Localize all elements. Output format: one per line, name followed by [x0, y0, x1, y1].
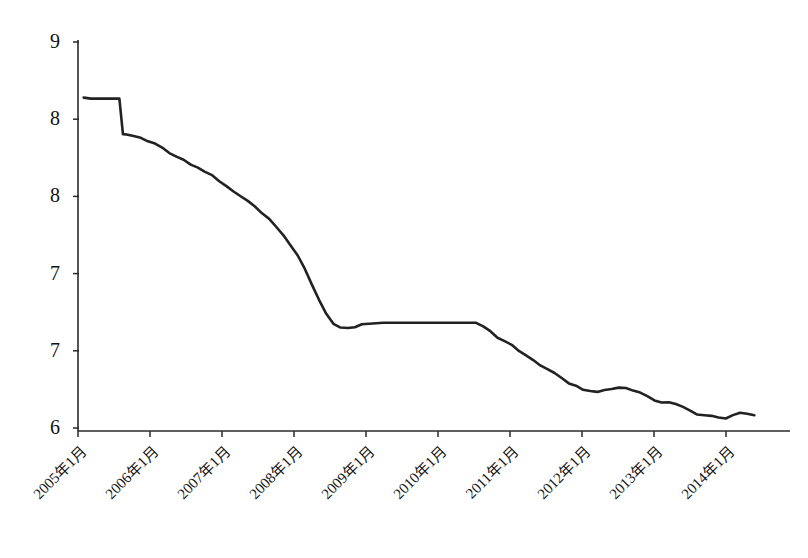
x-tick-marks — [78, 431, 726, 437]
y-tick-label: 7 — [20, 263, 60, 283]
y-tick-label: 8 — [20, 185, 60, 205]
axes-group — [78, 40, 790, 431]
data-series-line — [84, 98, 755, 419]
series-group — [84, 98, 755, 419]
y-tick-label: 8 — [20, 108, 60, 128]
y-tick-label: 9 — [20, 31, 60, 51]
y-tick-label: 7 — [20, 340, 60, 360]
y-tick-label: 6 — [20, 417, 60, 437]
line-chart: 988776 2005年1月2006年1月2007年1月2008年1月2009年… — [0, 0, 808, 558]
